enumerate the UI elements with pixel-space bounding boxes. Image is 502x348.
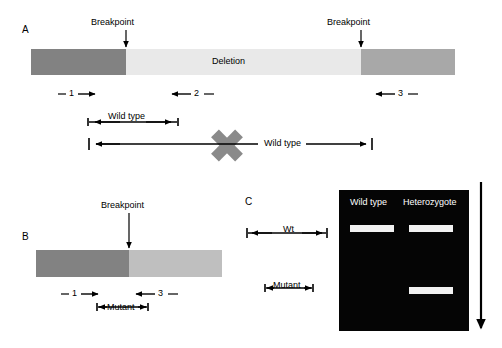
panel-b-product-span — [97, 303, 148, 311]
panel-a-long-product-span — [89, 138, 372, 150]
panel-c-marker-wt-span — [247, 228, 327, 238]
panel-a-short-product-span — [88, 118, 178, 126]
figure-line-overlay — [0, 0, 502, 348]
figure-root: A Breakpoint Breakpoint Deletion 1 2 3 W… — [0, 0, 502, 348]
panel-c-marker-mutant-span — [265, 284, 313, 292]
